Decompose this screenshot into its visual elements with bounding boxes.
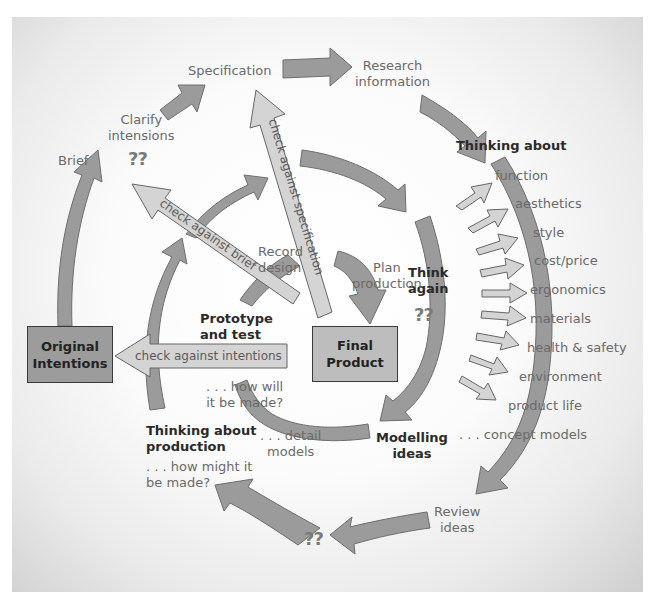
consideration-health-safety: health & safety xyxy=(527,340,627,356)
check-intentions-label: check against intentions xyxy=(135,349,282,363)
arrow-to-brief xyxy=(58,150,102,326)
label-thinking-production: Thinking about production xyxy=(146,423,257,455)
arrow-inner-up xyxy=(146,238,187,410)
consideration-style: style xyxy=(533,225,564,241)
label-how-will: . . . how will it be made? xyxy=(206,379,283,411)
label-brief: Brief xyxy=(58,153,88,169)
label-research: Research information xyxy=(355,58,430,90)
label-review: Review ideas xyxy=(434,504,480,536)
label-prototype: Prototype and test xyxy=(200,311,273,343)
diagram-arrows: .da { fill: #9b9b9b; stroke: #6e6e6e; st… xyxy=(0,0,659,606)
arrow-to-think-again xyxy=(300,150,406,212)
label-modelling: Modelling ideas xyxy=(376,430,448,462)
label-thinking-about: Thinking about xyxy=(456,138,567,154)
original-intentions-box: Original Intentions xyxy=(27,326,113,383)
consideration-product-life: product life xyxy=(508,398,582,414)
consideration-ergonomics: ergonomics xyxy=(530,282,606,298)
question-review: ?? xyxy=(304,528,323,549)
consideration-materials: materials xyxy=(530,311,591,327)
question-clarify: ?? xyxy=(128,148,147,169)
arrow-to-research xyxy=(283,48,352,86)
label-concept-models: . . . concept models xyxy=(459,427,587,443)
label-detail-models: . . . detail models xyxy=(260,428,321,460)
question-think-again: ?? xyxy=(414,304,433,325)
label-specification: Specification xyxy=(188,63,271,79)
label-how-might: . . . how might it be made? xyxy=(146,459,252,491)
arc-think-again xyxy=(380,216,445,421)
arrow-review-to-left xyxy=(330,512,430,554)
label-plan-production: Plan production xyxy=(352,260,422,292)
consideration-aesthetics: aesthetics xyxy=(515,196,582,212)
consideration-environment: environment xyxy=(519,369,602,385)
label-clarify: Clarify intensions xyxy=(108,112,175,144)
final-product-box: Final Product xyxy=(312,326,398,382)
consideration-cost-price: cost/price xyxy=(534,253,598,269)
label-record-design: Record design xyxy=(258,244,303,276)
consideration-function: function xyxy=(495,168,548,184)
